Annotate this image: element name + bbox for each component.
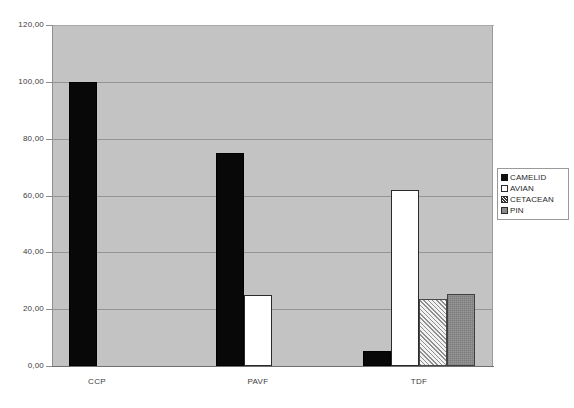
x-axis-label-pavf: PAVF <box>218 377 298 386</box>
x-axis-label-ccp: CCP <box>57 377 137 386</box>
bar-camelid-pavf <box>216 153 244 366</box>
y-axis-tick-label: 40,00 <box>0 247 44 256</box>
y-axis-tick-label: 20,00 <box>0 304 44 313</box>
legend-item-cetacean: CETACEAN <box>501 194 565 205</box>
x-axis-line <box>52 366 494 367</box>
bar-camelid-tdf <box>363 351 391 366</box>
y-axis-tick <box>46 309 52 310</box>
bar-cetacean-tdf <box>419 299 447 366</box>
y-axis-tick <box>46 82 52 83</box>
y-axis-tick-label: 120,00 <box>0 20 44 29</box>
y-axis-tick <box>46 366 52 367</box>
legend-swatch-avian <box>501 185 508 192</box>
y-axis-tick <box>46 25 52 26</box>
chart-legend: CAMELID AVIAN CETACEAN PIN <box>497 168 569 220</box>
legend-label-cetacean: CETACEAN <box>510 195 554 204</box>
y-axis-line <box>52 25 53 367</box>
x-axis-label-tdf: TDF <box>379 377 459 386</box>
legend-label-avian: AVIAN <box>510 184 534 193</box>
legend-item-camelid: CAMELID <box>501 172 565 183</box>
bar-pin-tdf <box>447 294 475 366</box>
y-axis-tick <box>46 196 52 197</box>
bar-chart: 0,0020,0040,0060,0080,00100,00120,00 CCP… <box>0 0 574 408</box>
plot-top-border <box>52 25 494 26</box>
y-axis-tick-label: 80,00 <box>0 134 44 143</box>
legend-swatch-cetacean <box>501 196 508 203</box>
legend-label-pin: PIN <box>510 206 524 215</box>
legend-swatch-pin <box>501 207 508 214</box>
gridline <box>52 252 492 253</box>
legend-swatch-camelid <box>501 174 508 181</box>
legend-label-camelid: CAMELID <box>510 173 546 182</box>
gridline <box>52 82 492 83</box>
legend-item-avian: AVIAN <box>501 183 565 194</box>
legend-item-pin: PIN <box>501 205 565 216</box>
bar-avian-tdf <box>391 190 419 366</box>
gridline <box>52 196 492 197</box>
y-axis-tick-label: 0,00 <box>0 361 44 370</box>
bar-avian-pavf <box>244 295 272 366</box>
y-axis-tick <box>46 139 52 140</box>
bar-camelid-ccp <box>69 82 97 366</box>
y-axis-tick-label: 100,00 <box>0 77 44 86</box>
gridline <box>52 139 492 140</box>
y-axis-tick <box>46 252 52 253</box>
y-axis-tick-label: 60,00 <box>0 191 44 200</box>
